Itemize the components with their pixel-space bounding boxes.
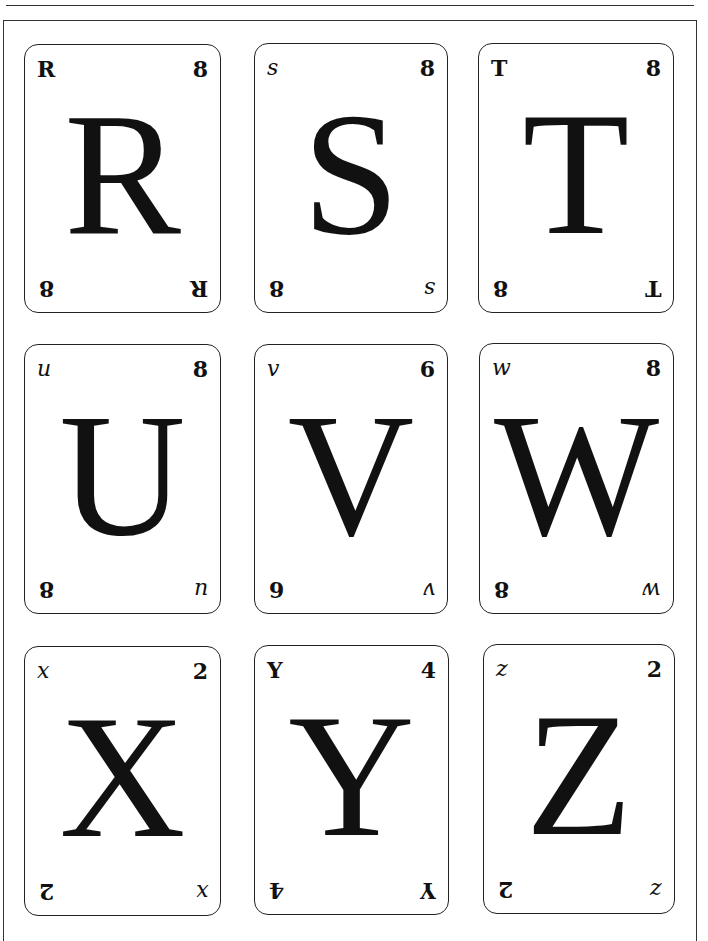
card-r: R 8 R 8 R (24, 44, 221, 313)
corner-number: 4 (421, 659, 436, 681)
corner-letter-inverted: z (650, 879, 662, 901)
card-letter: U (25, 388, 220, 563)
corner-letter: x (37, 660, 49, 682)
card-letter: X (25, 690, 220, 865)
corner-letter: w (492, 357, 511, 379)
top-rule (6, 5, 694, 6)
corner-number: 6 (420, 358, 435, 380)
card-z: z 2 Z 2 z (483, 644, 675, 914)
card-letter: Z (484, 688, 674, 863)
corner-letter-inverted: w (642, 579, 661, 601)
corner-number: 8 (193, 58, 208, 80)
corner-number-inverted: 8 (494, 579, 509, 601)
corner-letter: v (267, 358, 279, 380)
corner-number-inverted: 8 (269, 278, 284, 300)
corner-number: 8 (193, 358, 208, 380)
corner-number-inverted: 8 (39, 579, 54, 601)
card-letter: W (480, 388, 673, 563)
corner-number-inverted: 6 (269, 579, 284, 601)
corner-letter: s (267, 57, 278, 79)
corner-number-inverted: 4 (269, 880, 284, 902)
corner-letter-inverted: v (423, 579, 435, 601)
card-letter: V (255, 388, 447, 563)
corner-number-inverted: 8 (39, 278, 54, 300)
corner-number-inverted: 8 (493, 278, 508, 300)
corner-number-inverted: 2 (39, 881, 54, 903)
corner-letter-inverted: R (190, 278, 208, 300)
card-v: v 6 V 6 v (254, 344, 448, 614)
corner-letter-inverted: x (196, 881, 208, 903)
corner-letter-inverted: Y (420, 880, 436, 902)
card-letter: Y (255, 689, 448, 864)
card-w: w 8 W 8 w (479, 343, 674, 614)
corner-number: 8 (420, 57, 435, 79)
corner-number: 2 (647, 658, 662, 680)
card-y: Y 4 Y 4 Y (254, 645, 449, 915)
corner-letter: u (37, 358, 51, 380)
corner-letter-inverted: u (194, 579, 208, 601)
card-t: T 8 T 8 T (478, 43, 674, 313)
corner-letter: Y (267, 659, 283, 681)
corner-letter-inverted: T (645, 278, 661, 300)
corner-number-inverted: 2 (498, 879, 513, 901)
corner-letter-inverted: s (424, 278, 435, 300)
card-letter: T (479, 87, 673, 262)
corner-letter: T (491, 57, 507, 79)
card-u: u 8 U 8 u (24, 344, 221, 614)
corner-letter: z (496, 658, 508, 680)
corner-number: 2 (193, 660, 208, 682)
corner-number: 8 (646, 57, 661, 79)
card-s: s 8 S 8 s (254, 43, 448, 313)
corner-letter: R (37, 58, 55, 80)
card-letter: R (25, 88, 220, 263)
card-x: x 2 X 2 x (24, 646, 221, 916)
card-letter: S (255, 87, 447, 262)
corner-number: 8 (646, 357, 661, 379)
